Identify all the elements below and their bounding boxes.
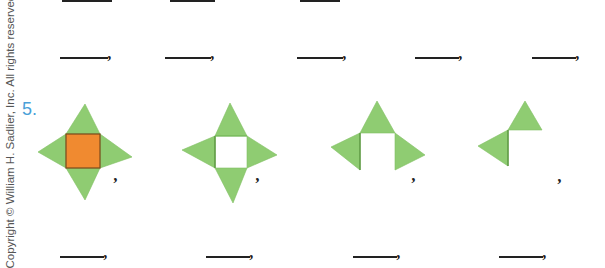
answer-blank[interactable]: , bbox=[353, 243, 413, 261]
figure-comma: , bbox=[558, 167, 562, 187]
comma: , bbox=[397, 244, 401, 262]
answer-blank[interactable]: , bbox=[499, 243, 559, 261]
comma: , bbox=[104, 244, 108, 262]
answer-blank[interactable]: , bbox=[60, 243, 120, 261]
figure-comma: , bbox=[114, 166, 118, 186]
comma: , bbox=[543, 244, 547, 262]
figure-2-empty-square-with-four-triangles bbox=[182, 103, 277, 203]
comma: , bbox=[250, 244, 254, 262]
figure-4-two-triangles bbox=[478, 101, 542, 166]
figure-comma: , bbox=[412, 166, 416, 186]
figure-comma: , bbox=[256, 166, 260, 186]
figure-3-three-triangles bbox=[331, 101, 425, 170]
answer-blank[interactable]: , bbox=[206, 243, 266, 261]
